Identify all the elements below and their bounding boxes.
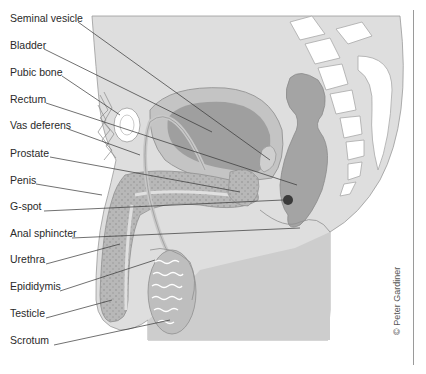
label-vas-deferens: Vas deferens xyxy=(10,119,71,131)
label-scrotum: Scrotum xyxy=(10,334,49,346)
label-g-spot: G-spot xyxy=(10,200,42,212)
label-anal-sphincter: Anal sphincter xyxy=(10,227,77,239)
label-penis: Penis xyxy=(10,174,36,186)
testicle-shape xyxy=(148,250,196,334)
label-pubic-bone: Pubic bone xyxy=(10,66,63,78)
label-prostate: Prostate xyxy=(10,147,49,159)
label-rectum: Rectum xyxy=(10,93,46,105)
label-testicle: Testicle xyxy=(10,307,45,319)
right-border-rule xyxy=(413,10,414,365)
pubic-bone-shape xyxy=(114,108,140,142)
label-bladder: Bladder xyxy=(10,39,46,51)
label-urethra: Urethra xyxy=(10,253,45,265)
g-spot-dot xyxy=(283,195,293,205)
anatomy-diagram xyxy=(0,0,426,374)
label-seminal-vesicle: Seminal vesicle xyxy=(10,12,83,24)
copyright-credit: © Peter Gardiner xyxy=(392,267,402,335)
label-epididymis: Epididymis xyxy=(10,280,61,292)
